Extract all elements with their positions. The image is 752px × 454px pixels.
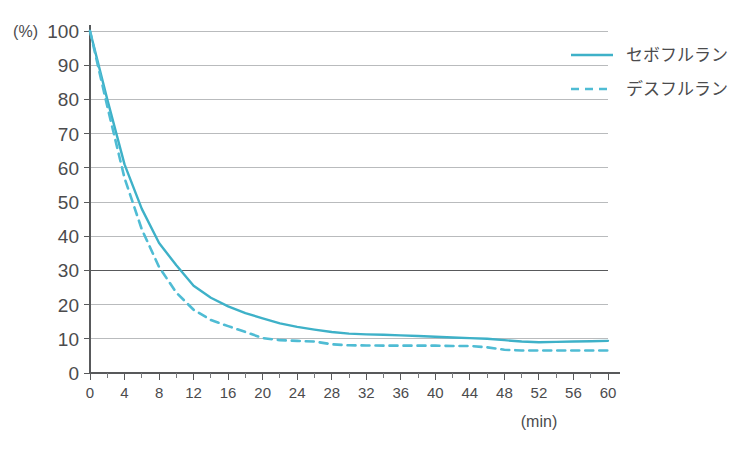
x-axis: 04812162024283236404448525660(min) [86,373,620,430]
y-axis: 0102030405060708090100(%) [13,21,90,384]
x-tick-label-16: 16 [220,384,237,401]
y-tick-label-30: 30 [58,260,79,281]
x-tick-label-8: 8 [155,384,163,401]
y-tick-label-40: 40 [58,226,79,247]
y-tick-label-50: 50 [58,192,79,213]
chart-container: 0102030405060708090100(%)048121620242832… [0,0,752,454]
legend-label-1: セボフルラン [626,45,728,65]
y-tick-label-20: 20 [58,295,79,316]
series-group [90,31,608,350]
y-tick-label-10: 10 [58,329,79,350]
series-line-1 [90,31,608,342]
x-tick-label-60: 60 [600,384,617,401]
x-tick-label-56: 56 [565,384,582,401]
x-tick-label-48: 48 [496,384,513,401]
x-axis-title: (min) [521,413,557,430]
y-tick-label-60: 60 [58,158,79,179]
x-tick-label-36: 36 [392,384,409,401]
x-tick-label-32: 32 [358,384,375,401]
y-axis-unit-label: (%) [13,23,38,40]
legend: セボフルランデスフルラン [571,45,728,99]
x-tick-label-28: 28 [323,384,340,401]
y-tick-label-90: 90 [58,55,79,76]
y-tick-label-100: 100 [47,21,79,42]
x-tick-label-40: 40 [427,384,444,401]
x-tick-label-24: 24 [289,384,306,401]
x-tick-label-20: 20 [254,384,271,401]
x-tick-label-12: 12 [185,384,202,401]
legend-label-2: デスフルラン [626,79,728,99]
x-tick-label-4: 4 [120,384,128,401]
series-line-2 [90,31,608,350]
x-tick-label-44: 44 [462,384,479,401]
gridlines [90,31,608,339]
line-chart: 0102030405060708090100(%)048121620242832… [0,0,752,454]
y-tick-label-70: 70 [58,124,79,145]
x-tick-label-0: 0 [86,384,94,401]
y-tick-label-80: 80 [58,89,79,110]
y-tick-label-0: 0 [68,363,79,384]
x-tick-label-52: 52 [531,384,548,401]
